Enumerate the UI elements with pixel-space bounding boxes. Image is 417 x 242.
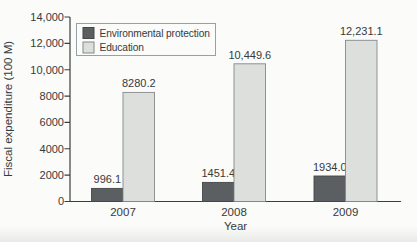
y-tick-label: 10,000: [30, 64, 64, 76]
y-tick-marks: [65, 17, 71, 202]
bar-chart: 0 2000 4000 6000 8000 10,000 12,000 14,0…: [0, 0, 417, 242]
bar-value-label-2009-series-0: 1934.0: [313, 161, 347, 173]
scanned-bar-chart-figure: 0 2000 4000 6000 8000 10,000 12,000 14,0…: [0, 0, 417, 242]
bar-2007-series-0: [92, 188, 124, 201]
bar-value-label-2007-series-0: 996.1: [94, 173, 122, 185]
bar-value-label-2007-series-1: 8280.2: [122, 77, 156, 89]
legend-swatch-environmental-protection: [83, 28, 94, 39]
bar-value-label-2008-series-0: 1451.4: [201, 167, 235, 179]
bar-2008-series-1: [234, 64, 266, 202]
x-axis-title: Year: [224, 220, 247, 232]
y-tick-label: 0: [58, 195, 64, 207]
bar-value-label-2008-series-1: 10,449.6: [228, 49, 271, 61]
y-tick-label: 14,000: [30, 11, 64, 23]
bar-2007-series-1: [123, 92, 155, 201]
legend-swatch-education: [83, 42, 94, 53]
x-tick-label: 2007: [110, 206, 136, 218]
y-tick-label: 2000: [40, 169, 64, 181]
y-tick-label: 12,000: [30, 37, 64, 49]
legend: Environmental protection Education: [77, 24, 216, 56]
legend-label-environmental-protection: Environmental protection: [100, 28, 210, 39]
bar-value-label-2009-series-1: 12,231.1: [340, 25, 383, 37]
x-tick-label: 2009: [333, 206, 359, 218]
x-tick-label: 2008: [221, 206, 247, 218]
bar-2009-series-1: [346, 40, 378, 201]
y-tick-label: 8000: [40, 90, 64, 102]
bar-2009-series-0: [314, 176, 346, 202]
y-tick-label: 6000: [40, 116, 64, 128]
legend-label-education: Education: [100, 42, 144, 53]
y-tick-label: 4000: [40, 143, 64, 155]
bar-2008-series-0: [203, 182, 235, 201]
y-axis-title: Fiscal expenditure (100 M): [2, 41, 14, 177]
